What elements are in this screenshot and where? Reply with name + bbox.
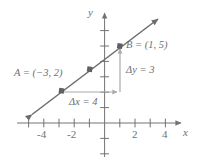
x-axis-label: x: [183, 126, 188, 138]
point-M: [87, 66, 93, 72]
y-axis-label: y: [88, 6, 93, 18]
coordinate-plane-figure: y x -4 -2 2 4 A = (−3, 2) B = (1, 5) Δx …: [0, 0, 198, 164]
x-tick-label-neg4: -4: [37, 128, 46, 140]
point-label-A: A = (−3, 2): [14, 67, 62, 78]
point-B: [117, 43, 123, 49]
point-A: [59, 88, 65, 94]
x-tick-label-4: 4: [162, 128, 168, 140]
x-tick-label-2: 2: [132, 128, 138, 140]
y-axis: [100, 13, 109, 157]
x-axis: [17, 119, 181, 128]
delta-x-label: Δx = 4: [69, 96, 97, 107]
x-tick-label-neg2: -2: [67, 128, 76, 140]
delta-y-label: Δy = 3: [126, 64, 154, 75]
graph-canvas: [0, 0, 198, 164]
point-label-B: B = (1, 5): [126, 39, 168, 50]
